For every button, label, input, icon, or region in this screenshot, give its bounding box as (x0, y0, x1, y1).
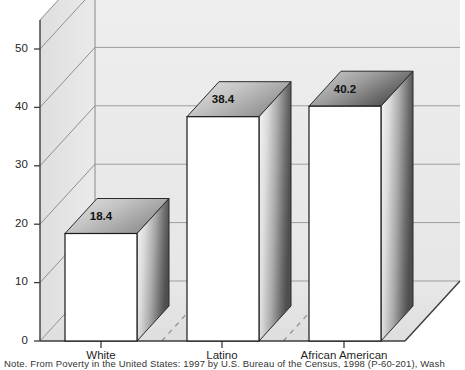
bar-african-american-front (309, 106, 381, 341)
bar-latino[interactable] (187, 82, 291, 341)
y-tick-label-40: 40 (2, 100, 28, 112)
bar-white-front (65, 234, 137, 342)
chart-canvas (0, 0, 465, 370)
y-tick-label-20: 20 (2, 217, 28, 229)
bar-african-american-side (381, 71, 413, 341)
y-tick-label-0: 0 (2, 334, 28, 346)
y-tick-label-30: 30 (2, 158, 28, 170)
bar-african-american[interactable] (309, 71, 413, 341)
chart-figure: 50 40 30 20 10 0 18.4 38.4 40.2 White La… (0, 0, 465, 370)
bar-latino-front (187, 117, 259, 341)
y-tick-label-50: 50 (2, 42, 28, 54)
x-axis-ticks (101, 341, 344, 348)
bar-latino-side (259, 82, 291, 341)
y-axis-ticks (34, 49, 40, 341)
y-tick-label-10: 10 (2, 275, 28, 287)
bar-value-label-african-american: 40.2 (309, 83, 381, 95)
bar-value-label-latino: 38.4 (187, 93, 259, 105)
source-note: Note. From Poverty in the United States:… (4, 358, 465, 369)
bar-value-label-white: 18.4 (65, 210, 137, 222)
